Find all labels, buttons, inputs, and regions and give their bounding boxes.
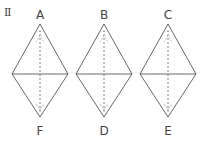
vertex-label-top: B xyxy=(100,8,108,22)
vertex-label-bottom: F xyxy=(37,124,44,138)
vertex-label-bottom: E xyxy=(164,124,172,138)
vertex-label-top: C xyxy=(164,8,172,22)
diamond-a-f: A F xyxy=(12,8,68,138)
vertex-label-bottom: D xyxy=(99,124,108,138)
vertex-label-top: A xyxy=(36,8,45,22)
diagram-canvas: Ⅱ A F B D C E xyxy=(0,0,205,146)
diamond-b-d: B D xyxy=(76,8,132,138)
figure-number: Ⅱ xyxy=(4,6,11,19)
diamond-c-e: C E xyxy=(140,8,196,138)
